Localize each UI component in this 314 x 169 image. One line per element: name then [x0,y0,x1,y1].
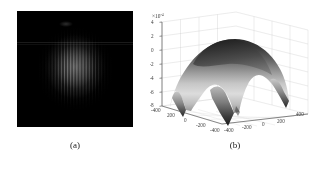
z-tick-4: 4 [151,19,154,25]
y-tick-m400: -400 [210,127,220,133]
surface-plot-svg: ×10-4 4 2 0 -2 -4 -6 -8 -400 200 0 -200 … [150,6,314,134]
x-tick-0: 0 [262,121,265,127]
y-tick-m400-origin: -400 [151,107,161,113]
horizontal-artifact-line [17,42,133,43]
y-tick-0: 0 [184,117,187,123]
y-tick-200: 200 [167,112,175,118]
z-tick-m2: -2 [150,61,154,67]
x-tick-400: 400 [296,111,304,117]
surface-mesh [170,39,289,126]
top-speck-artifact [59,21,73,27]
caption-a: (a) [0,140,150,150]
z-tick-m4: -4 [150,75,154,81]
horizontal-artifact-line-secondary [17,44,133,45]
z-tick-2: 2 [151,33,154,39]
z-exponent-label: ×10-4 [152,13,164,19]
panel-b-surface-plot: ×10-4 4 2 0 -2 -4 -6 -8 -400 200 0 -200 … [150,6,314,134]
x-tick-200: 200 [277,118,285,124]
diffraction-fringes [17,11,133,127]
figure-container: ×10-4 4 2 0 -2 -4 -6 -8 -400 200 0 -200 … [0,0,314,169]
caption-b: (b) [160,140,310,150]
z-tick-0: 0 [151,47,154,53]
x-tick-m200: -200 [242,124,252,130]
y-tick-m200: -200 [196,122,206,128]
z-axis-ticks [160,22,163,106]
panel-a-diffraction-image [17,11,133,127]
x-tick-m400: -400 [224,127,234,133]
z-tick-m6: -6 [150,89,154,95]
